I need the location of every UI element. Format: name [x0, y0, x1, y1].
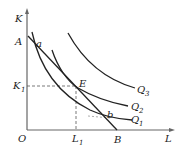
l1-label: L 1	[71, 133, 83, 147]
y-axis-arrow-icon	[25, 8, 29, 14]
origin-label: O	[18, 133, 26, 144]
q1-label: Q 1	[131, 114, 143, 128]
svg-text:L: L	[71, 133, 79, 144]
point-b-lower-label: b	[107, 109, 113, 120]
q2-label: Q 2	[131, 101, 144, 115]
k1-label: K 1	[12, 80, 25, 94]
svg-text:1: 1	[139, 120, 143, 128]
q3-label: Q 3	[137, 84, 150, 98]
svg-text:3: 3	[145, 90, 150, 98]
svg-text:Q: Q	[131, 114, 139, 125]
point-a-lower-label: a	[36, 38, 42, 49]
svg-text:Q: Q	[137, 84, 145, 95]
point-a-upper-label: A	[14, 36, 22, 47]
point-b-upper-label: B	[113, 134, 121, 145]
isoquant-q1	[32, 32, 132, 120]
x-axis-label: L	[164, 133, 172, 144]
isoquant-q2	[52, 50, 128, 106]
isoquant-diagram: K L O A a E b B K 1 L 1 Q 3 Q 2 Q 1	[0, 0, 181, 150]
svg-text:1: 1	[21, 86, 25, 94]
x-axis-arrow-icon	[169, 128, 175, 132]
svg-text:1: 1	[79, 139, 83, 147]
y-axis-label: K	[14, 13, 23, 24]
svg-text:Q: Q	[131, 101, 139, 112]
svg-text:K: K	[12, 80, 21, 91]
point-e-label: E	[78, 78, 87, 89]
isocost-line-ab	[28, 36, 117, 130]
